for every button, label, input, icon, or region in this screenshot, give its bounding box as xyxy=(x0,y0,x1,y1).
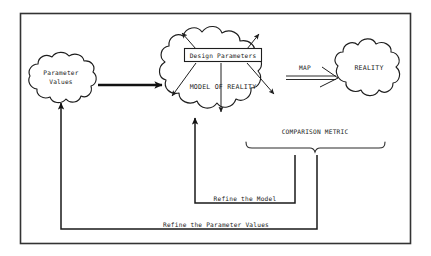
refine-parameter-values-label: Refine the Parameter Values xyxy=(163,221,269,228)
map-arrowhead xyxy=(320,67,338,87)
diagram-svg: Parameter Values Design Parameters MODEL… xyxy=(0,0,431,256)
node-reality: REALITY xyxy=(335,39,399,96)
node-parameter-values: Parameter Values xyxy=(29,52,96,102)
cloud-shape-model-of-reality xyxy=(159,26,261,108)
node-model-of-reality: Design Parameters MODEL OF REALITY xyxy=(159,26,274,112)
refine-model-label: Refine the Model xyxy=(214,195,277,202)
model-of-reality-label: MODEL OF REALITY xyxy=(190,83,257,91)
edge-refine-parameter-values: Refine the Parameter Values xyxy=(61,103,317,229)
design-parameters-label: Design Parameters xyxy=(190,52,257,60)
diagram-canvas: Parameter Values Design Parameters MODEL… xyxy=(0,0,431,256)
refine-model-path xyxy=(195,118,295,203)
comparison-metric-brace xyxy=(246,142,385,152)
comparison-metric-label: COMPARISON METRIC xyxy=(282,128,349,135)
edge-refine-model: Refine the Model xyxy=(195,118,295,203)
edge-comparison-metric: COMPARISON METRIC xyxy=(246,128,385,152)
reality-label: REALITY xyxy=(354,64,383,72)
refine-parameter-values-path xyxy=(61,103,317,229)
parameter-values-label-line1: Parameter xyxy=(43,69,78,76)
edge-map: MAP xyxy=(286,64,338,87)
parameter-values-label-line2: Values xyxy=(49,78,73,85)
map-label: MAP xyxy=(299,64,311,71)
